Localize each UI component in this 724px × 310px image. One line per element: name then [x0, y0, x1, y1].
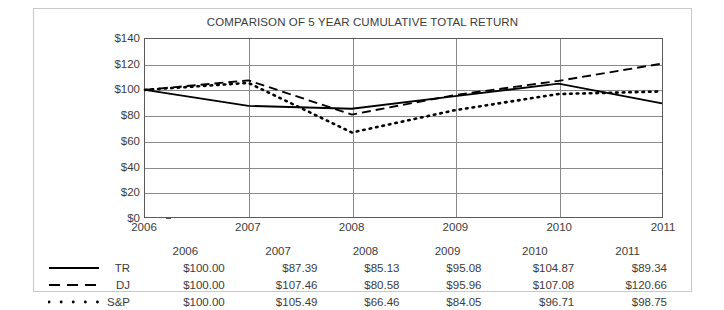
chart-title: COMPARISON OF 5 YEAR CUMULATIVE TOTAL RE…: [34, 16, 691, 28]
table-cell: $120.66: [588, 276, 681, 293]
table-cell: $89.34: [588, 259, 681, 276]
table-row: TR$100.00$87.39$85.13$95.08$104.87$89.34: [48, 259, 681, 276]
table-cell: $105.49: [239, 293, 332, 310]
y-tick-label: $100: [66, 83, 140, 95]
legend-label: DJ: [100, 279, 136, 291]
legend-entry-tr: TR: [48, 259, 146, 276]
table-cell: $95.08: [413, 259, 495, 276]
figure-frame: COMPARISON OF 5 YEAR CUMULATIVE TOTAL RE…: [33, 8, 692, 292]
legend-swatch-dashed: [48, 280, 100, 290]
table-cell: $84.05: [413, 293, 495, 310]
data-table: 200620072008200920102011TR$100.00$87.39$…: [48, 242, 681, 310]
table-row: S&P$100.00$105.49$66.46$84.05$96.71$98.7…: [48, 293, 681, 310]
x-tick-label: 2008: [339, 221, 365, 233]
series-line-sandp: [145, 83, 662, 133]
table-column-header: 2006: [146, 242, 239, 259]
legend-swatch-dotted: [48, 297, 100, 307]
data-table-body: 200620072008200920102011TR$100.00$87.39$…: [48, 242, 681, 310]
table-cell: $100.00: [146, 293, 239, 310]
table-column-header: 2008: [331, 242, 413, 259]
y-tick-label: $60: [66, 135, 140, 147]
legend-label: S&P: [100, 296, 136, 308]
y-axis: $0$20$40$60$80$100$120$140: [62, 38, 140, 218]
x-tick-label: 2007: [235, 221, 261, 233]
table-cell: $100.00: [146, 259, 239, 276]
table-column-header: 2011: [588, 242, 681, 259]
table-cell: $66.46: [331, 293, 413, 310]
table-header-corner: [48, 242, 146, 259]
table-cell: $107.46: [239, 276, 332, 293]
legend-label: TR: [100, 262, 136, 274]
table-column-header: 2007: [239, 242, 332, 259]
y-tick-label: $140: [66, 32, 140, 44]
table-cell: $96.71: [496, 293, 589, 310]
y-tick-label: $40: [66, 161, 140, 173]
table-cell: $98.75: [588, 293, 681, 310]
table-cell: $107.08: [496, 276, 589, 293]
table-column-header: 2010: [496, 242, 589, 259]
table-cell: $80.58: [331, 276, 413, 293]
legend-entry-dj: DJ: [48, 276, 146, 293]
x-tick-label: 2010: [546, 221, 572, 233]
x-tick-label: 2011: [651, 221, 676, 233]
legend-entry-sandp: S&P: [48, 293, 146, 310]
x-tick-label: 2006: [131, 221, 157, 233]
table-header-row: 200620072008200920102011: [48, 242, 681, 259]
table-cell: $85.13: [331, 259, 413, 276]
table-cell: $104.87: [496, 259, 589, 276]
y-tick-label: $120: [66, 58, 140, 70]
table-row: DJ$100.00$107.46$80.58$95.96$107.08$120.…: [48, 276, 681, 293]
x-tick-label: 2009: [443, 221, 469, 233]
legend-swatch-solid: [48, 263, 100, 273]
table-cell: $95.96: [413, 276, 495, 293]
y-tick-mark: [166, 218, 171, 219]
table-cell: $100.00: [146, 276, 239, 293]
y-tick-label: $0: [66, 212, 140, 224]
y-tick-label: $20: [66, 186, 140, 198]
table-cell: $87.39: [239, 259, 332, 276]
series-lines: [145, 39, 662, 217]
y-tick-label: $80: [66, 109, 140, 121]
x-axis: 200620072008200920102011: [144, 221, 663, 239]
table-column-header: 2009: [413, 242, 495, 259]
plot-area: [144, 38, 663, 218]
